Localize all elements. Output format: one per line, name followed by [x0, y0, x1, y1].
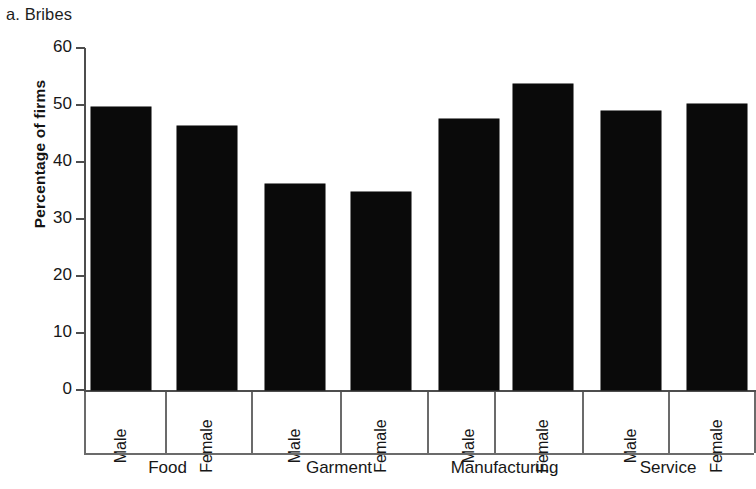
bar	[91, 107, 151, 390]
y-tick-label: 50	[32, 94, 72, 114]
x-axis-separator	[251, 392, 253, 453]
y-tick-label: 10	[32, 322, 72, 342]
group-label-food: Food	[84, 458, 251, 478]
x-tick-label-female: Female	[686, 392, 748, 454]
group-band-line	[427, 453, 582, 455]
bar	[265, 184, 325, 390]
x-axis-separator	[340, 392, 342, 453]
plot-area	[84, 40, 756, 391]
group-label-service: Service	[582, 458, 754, 478]
x-tick-label-female: Female	[512, 392, 574, 454]
bar	[687, 104, 747, 390]
y-tick-label: 0	[32, 379, 72, 399]
y-tick-label: 60	[32, 37, 72, 57]
x-tick-label-male: Male	[438, 392, 500, 454]
group-label-garment: Garment	[251, 458, 427, 478]
group-band-line	[251, 453, 427, 455]
bar	[439, 119, 499, 390]
bribes-bar-chart: a. Bribes Percentage of firms 0102030405…	[0, 0, 756, 489]
y-tick-label: 30	[32, 208, 72, 228]
bar	[351, 192, 411, 390]
x-axis-separator	[668, 392, 670, 453]
x-tick-label-female: Female	[350, 392, 412, 454]
y-tick-label: 20	[32, 265, 72, 285]
x-tick-label-male: Male	[600, 392, 662, 454]
group-band-line	[582, 453, 754, 455]
group-label-manufacturing: Manufacturing	[427, 458, 582, 478]
group-band-line	[84, 453, 251, 455]
x-tick-label-male: Male	[264, 392, 326, 454]
bar	[513, 84, 573, 390]
x-axis-separator	[165, 392, 167, 453]
x-tick-label-male: Male	[90, 392, 152, 454]
x-axis-separator	[84, 392, 86, 453]
x-axis-separator	[427, 392, 429, 453]
x-tick-label-female: Female	[176, 392, 238, 454]
x-axis-separator	[582, 392, 584, 453]
bar	[601, 111, 661, 390]
x-axis-separator	[494, 392, 496, 453]
bar	[177, 126, 237, 390]
panel-title: a. Bribes	[6, 5, 72, 24]
y-tick-label: 40	[32, 151, 72, 171]
